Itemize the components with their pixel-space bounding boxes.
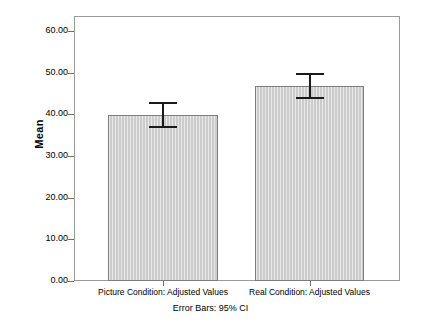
- y-tick-mark: [68, 281, 74, 282]
- y-tick-label: 10.00: [22, 234, 68, 243]
- error-bar-cap-lower: [149, 126, 177, 128]
- bars-layer: [75, 17, 399, 281]
- error-bar-stem: [309, 73, 311, 99]
- bar: [255, 86, 364, 281]
- error-bar: [149, 102, 177, 128]
- error-bar-stem: [162, 102, 164, 128]
- y-tick-label: 0.00: [22, 276, 68, 285]
- y-tick-mark: [68, 239, 74, 240]
- y-tick-mark: [68, 156, 74, 157]
- y-tick-mark: [68, 73, 74, 74]
- bar-chart: Mean 60.0050.0040.0030.0020.0010.000.00 …: [0, 0, 421, 326]
- x-tick-label: Real Condition: Adjusted Values: [230, 288, 390, 297]
- error-bar-cap-lower: [296, 97, 324, 99]
- y-tick-label: 60.00: [22, 26, 68, 35]
- y-tick-label: 20.00: [22, 193, 68, 202]
- y-tick-mark: [68, 114, 74, 115]
- error-bar: [296, 73, 324, 99]
- y-axis-ticks: 60.0050.0040.0030.0020.0010.000.00: [22, 0, 68, 326]
- y-tick-mark: [68, 31, 74, 32]
- x-tick-mark: [310, 281, 311, 286]
- bar: [108, 115, 218, 281]
- error-bars-note: Error Bars: 95% CI: [0, 303, 421, 313]
- x-tick-mark: [163, 281, 164, 286]
- y-tick-label: 40.00: [22, 109, 68, 118]
- y-tick-mark: [68, 198, 74, 199]
- y-tick-label: 50.00: [22, 68, 68, 77]
- x-tick-label: Picture Condition: Adjusted Values: [83, 288, 243, 297]
- y-tick-label: 30.00: [22, 151, 68, 160]
